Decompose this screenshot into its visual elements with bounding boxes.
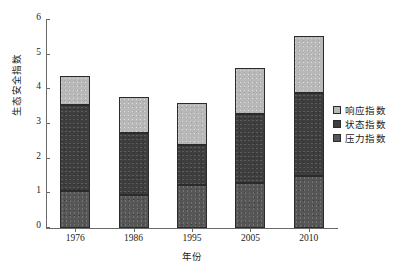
y-tick-label: 1	[36, 185, 41, 195]
legend-label: 状态指数	[345, 117, 386, 131]
bar-segment-响应指数[interactable]	[235, 68, 265, 113]
y-tick: 4	[46, 88, 50, 89]
bar-segment-响应指数[interactable]	[119, 97, 149, 133]
legend-swatch-icon	[333, 120, 341, 128]
y-tick-mark	[46, 88, 50, 89]
x-tick-mark	[134, 228, 135, 232]
x-tick-label: 2005	[224, 233, 276, 243]
bar-segment-状态指数[interactable]	[294, 93, 324, 176]
y-tick: 3	[46, 123, 50, 124]
x-tick-mark	[309, 228, 310, 232]
y-tick: 6	[46, 19, 50, 20]
x-tick-label: 1986	[108, 233, 160, 243]
legend-item[interactable]: 压力指数	[333, 131, 386, 145]
y-tick-mark	[46, 227, 50, 228]
legend-label: 压力指数	[345, 131, 386, 145]
bar-segment-响应指数[interactable]	[177, 103, 207, 145]
y-tick-mark	[46, 192, 50, 193]
y-tick-label: 6	[36, 12, 41, 22]
legend-label: 响应指数	[345, 103, 386, 117]
x-tick-mark	[75, 228, 76, 232]
bar-segment-状态指数[interactable]	[60, 105, 90, 191]
x-tick-mark	[250, 228, 251, 232]
bar-2005[interactable]	[235, 68, 265, 228]
x-tick-label: 1976	[49, 233, 101, 243]
y-tick-mark	[46, 19, 50, 20]
x-tick-label: 1995	[166, 233, 218, 243]
bar-1995[interactable]	[177, 103, 207, 228]
y-tick-label: 0	[36, 220, 41, 230]
plot-area: 0123456 19761986199520052010	[46, 20, 338, 228]
y-tick: 0	[46, 227, 50, 228]
bar-segment-状态指数[interactable]	[177, 145, 207, 185]
bar-segment-压力指数[interactable]	[119, 195, 149, 228]
stacked-bar-chart: 生态安全指数 0123456 19761986199520052010 年份 响…	[0, 0, 401, 278]
bar-1976[interactable]	[60, 76, 90, 228]
legend-item[interactable]: 状态指数	[333, 117, 386, 131]
y-axis-line	[46, 20, 47, 229]
bar-segment-响应指数[interactable]	[60, 76, 90, 104]
y-tick: 2	[46, 158, 50, 159]
bar-segment-压力指数[interactable]	[60, 191, 90, 228]
y-axis-title: 生态安全指数	[9, 25, 23, 145]
chart-legend: 响应指数状态指数压力指数	[333, 103, 386, 145]
y-tick-label: 2	[36, 151, 41, 161]
bar-2010[interactable]	[294, 36, 324, 228]
bar-segment-压力指数[interactable]	[294, 176, 324, 228]
y-tick-label: 4	[36, 81, 41, 91]
y-tick-mark	[46, 54, 50, 55]
bar-segment-压力指数[interactable]	[177, 185, 207, 228]
x-tick-mark	[192, 228, 193, 232]
y-tick-label: 5	[36, 47, 41, 57]
bar-1986[interactable]	[119, 97, 149, 228]
x-axis-title: 年份	[46, 249, 338, 263]
bar-segment-状态指数[interactable]	[235, 114, 265, 183]
bar-segment-状态指数[interactable]	[119, 133, 149, 195]
x-tick-label: 2010	[283, 233, 335, 243]
bar-segment-响应指数[interactable]	[294, 36, 324, 93]
y-tick-mark	[46, 158, 50, 159]
legend-swatch-icon	[333, 134, 341, 142]
legend-item[interactable]: 响应指数	[333, 103, 386, 117]
bar-segment-压力指数[interactable]	[235, 183, 265, 228]
y-tick-label: 3	[36, 116, 41, 126]
y-tick: 5	[46, 54, 50, 55]
y-tick: 1	[46, 192, 50, 193]
legend-swatch-icon	[333, 106, 341, 114]
y-tick-mark	[46, 123, 50, 124]
